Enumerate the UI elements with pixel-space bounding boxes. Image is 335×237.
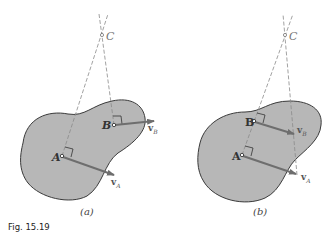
panel-label-a: (a) bbox=[80, 207, 94, 217]
label-v-a: vA bbox=[111, 178, 121, 189]
label-b: B bbox=[102, 120, 111, 131]
label-a: A bbox=[52, 152, 61, 163]
figure-caption: Fig. 15.19 bbox=[8, 222, 50, 232]
rigid-body-a bbox=[21, 100, 146, 200]
label-b: B bbox=[245, 117, 254, 128]
label-c: C bbox=[106, 31, 114, 42]
point-b bbox=[112, 123, 115, 126]
point-c bbox=[283, 33, 286, 36]
label-a: A bbox=[232, 151, 241, 162]
label-v-b: vB bbox=[148, 124, 158, 135]
rigid-body-b bbox=[198, 101, 321, 202]
label-v-b: vB bbox=[297, 126, 307, 137]
label-c: C bbox=[289, 31, 297, 42]
panel-label-b: (b) bbox=[253, 207, 267, 217]
point-c bbox=[100, 33, 103, 36]
label-v-a: vA bbox=[301, 173, 311, 184]
diagram-canvas bbox=[0, 0, 335, 237]
